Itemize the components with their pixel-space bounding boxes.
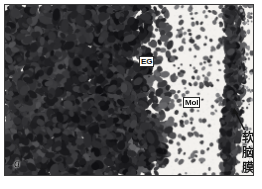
label-pia-mater: 软 脑 膜 <box>241 131 254 176</box>
panel-letter-label: a <box>14 157 20 169</box>
histology-image <box>5 5 253 175</box>
label-molecular-layer: Mol <box>183 97 200 108</box>
micrograph-frame: EG Mol 软 脑 膜 a <box>4 4 254 176</box>
label-external-granular-layer: EG <box>139 56 154 67</box>
figure-panel: EG Mol 软 脑 膜 a <box>0 0 262 189</box>
